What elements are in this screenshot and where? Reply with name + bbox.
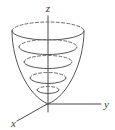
y-axis-label: y xyxy=(103,98,109,110)
paraboloid-diagram: z y x xyxy=(0,0,115,130)
x-axis-line xyxy=(17,103,49,121)
paraboloid-figure: z y x xyxy=(0,0,115,130)
z-axis-label: z xyxy=(45,2,51,14)
axes-group xyxy=(17,16,101,121)
x-axis-label: x xyxy=(10,117,16,129)
